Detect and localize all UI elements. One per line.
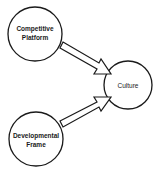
- arrow-competitive-to-culture: [60, 42, 111, 74]
- node-competitive-platform: Competitive Platform: [8, 7, 62, 61]
- block-arrow-icon: [60, 97, 111, 127]
- concept-diagram: Competitive Platform Culture Development…: [0, 0, 167, 173]
- node-label-line2: Platform: [22, 34, 49, 41]
- node-label-line1: Developmental: [13, 132, 59, 140]
- node-developmental-frame: Developmental Frame: [9, 112, 63, 166]
- node-circle: [9, 112, 63, 166]
- node-culture: Culture: [104, 61, 152, 109]
- node-label-line2: Frame: [26, 141, 46, 148]
- node-label-line1: Culture: [118, 82, 139, 89]
- block-arrow-icon: [60, 42, 111, 74]
- arrow-developmental-to-culture: [60, 97, 111, 127]
- node-label-line1: Competitive: [16, 25, 54, 33]
